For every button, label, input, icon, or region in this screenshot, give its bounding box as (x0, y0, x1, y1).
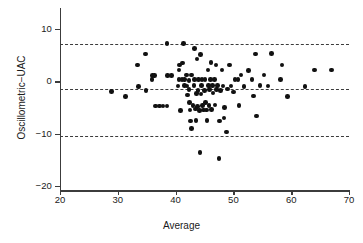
data-point (184, 73, 189, 78)
y-tick-mark (55, 29, 60, 30)
data-point (262, 73, 267, 78)
data-point (202, 88, 207, 93)
data-point (231, 90, 236, 95)
data-point (198, 52, 203, 57)
data-point (209, 60, 214, 65)
data-point (188, 108, 193, 113)
data-point (165, 41, 170, 46)
data-point (253, 52, 258, 57)
data-point (237, 103, 242, 108)
data-point (198, 150, 203, 155)
data-point (181, 41, 186, 46)
x-tick-label: 20 (45, 195, 75, 205)
data-point (242, 84, 247, 89)
data-point (214, 63, 219, 68)
data-point (280, 63, 285, 68)
data-point (185, 93, 190, 98)
data-points-group (0, 0, 363, 243)
data-point (217, 119, 222, 124)
data-point (178, 108, 183, 113)
x-tick-label: 50 (218, 195, 248, 205)
data-point (204, 108, 209, 113)
data-point (143, 52, 148, 57)
data-point (222, 116, 227, 121)
data-point (206, 68, 211, 73)
data-point (278, 77, 283, 82)
data-point (205, 118, 210, 123)
x-tick-label: 30 (103, 195, 133, 205)
y-tick-mark (55, 186, 60, 187)
data-point (176, 84, 181, 89)
data-point (213, 103, 218, 108)
data-point (239, 73, 244, 78)
data-point (303, 84, 308, 89)
data-point (123, 94, 128, 99)
data-point (152, 73, 157, 78)
data-point (236, 77, 241, 82)
data-point (312, 68, 317, 73)
data-point (222, 105, 227, 110)
data-point (189, 126, 194, 131)
data-point (229, 84, 234, 89)
data-point (194, 118, 199, 123)
x-tick-label: 40 (161, 195, 191, 205)
x-axis-label: Average (0, 220, 363, 231)
data-point (195, 57, 200, 62)
data-point (269, 51, 274, 56)
y-tick-mark (55, 134, 60, 135)
data-point (203, 77, 208, 82)
data-point (192, 46, 197, 51)
data-point (217, 156, 222, 161)
data-point (177, 68, 182, 73)
data-point (227, 63, 232, 68)
data-point (250, 77, 255, 82)
data-point (212, 77, 217, 82)
y-tick-label: −10 (26, 129, 52, 139)
data-point (150, 77, 155, 82)
data-point (180, 61, 185, 66)
data-point (218, 88, 223, 93)
data-point (254, 114, 259, 119)
data-point (136, 84, 141, 89)
data-point (187, 78, 192, 83)
data-point (109, 89, 114, 94)
data-point (192, 83, 197, 88)
data-point (224, 130, 229, 135)
data-point (169, 73, 174, 78)
data-point (144, 88, 149, 93)
data-point (285, 94, 290, 99)
data-point (329, 68, 334, 73)
x-tick-label: 60 (276, 195, 306, 205)
data-point (135, 63, 140, 68)
data-point (246, 68, 251, 73)
data-point (182, 77, 187, 82)
data-point (165, 104, 170, 109)
y-axis-label: Oscillometric−UAC (16, 13, 27, 183)
y-tick-label: −20 (26, 181, 52, 191)
x-tick-label: 70 (334, 195, 363, 205)
y-tick-label: 10 (26, 24, 52, 34)
data-point (251, 94, 256, 99)
data-point (209, 107, 214, 112)
data-point (187, 87, 192, 92)
bland-altman-scatter-figure: 100−10−20 203040506070 Average Oscillome… (0, 0, 363, 243)
y-tick-mark (55, 81, 60, 82)
y-tick-label: 0 (26, 76, 52, 86)
data-point (220, 68, 225, 73)
data-point (266, 84, 271, 89)
data-point (188, 119, 193, 124)
data-point (258, 83, 263, 88)
